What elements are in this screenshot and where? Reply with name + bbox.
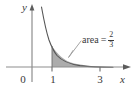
- area-annotation-fraction: 2 3: [108, 31, 114, 50]
- area-annotation-word: area: [82, 35, 99, 45]
- x-axis-label: x: [120, 74, 125, 85]
- area-annotation: area = 2 3: [82, 31, 114, 50]
- area-annotation-equals: =: [101, 35, 107, 45]
- fraction-numerator: 2: [108, 31, 114, 39]
- area-under-curve-figure: y x 0 1 3 area = 2 3: [0, 0, 134, 95]
- y-axis-arrowhead: [30, 4, 35, 11]
- y-axis-label: y: [22, 2, 27, 13]
- x-axis-arrowhead: [123, 64, 131, 70]
- annotation-leader-line: [69, 41, 82, 58]
- x-tick-label-1: 1: [48, 74, 58, 85]
- fraction-denominator: 3: [108, 41, 114, 49]
- x-tick-label-3: 3: [95, 74, 105, 85]
- x-tick-label-origin: 0: [18, 74, 28, 85]
